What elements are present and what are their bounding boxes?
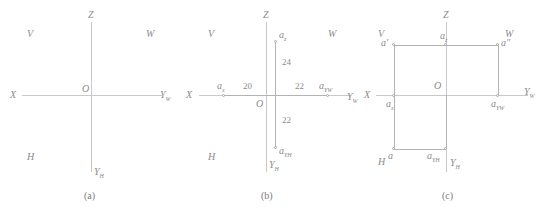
panel-a-z-axis (91, 22, 92, 172)
panel-b-label-origin: O (256, 99, 263, 109)
panel-c-label-ayw: aYW (491, 99, 504, 111)
panel-b-label-v: V (208, 29, 214, 39)
panel-b-dimension-20: 20 (243, 82, 252, 91)
panel-b-label-z: Z (263, 10, 269, 20)
panel-b-label-yw: YW (347, 92, 358, 104)
panel-c-label-origin: O (434, 81, 441, 91)
panel-c-label-a-prime: a′ (381, 38, 388, 48)
panel-b-label-az: az (279, 30, 286, 42)
panel-b-label-yh: YH (269, 160, 279, 172)
panel-c-label-z: Z (443, 10, 449, 20)
panel-b-label-ayh: aYH (279, 146, 292, 158)
panel-c-label-az: az (440, 31, 447, 43)
panel-c-label-yh: YH (450, 158, 460, 170)
panel-c-point-ayh (444, 147, 447, 150)
panel-b-caption: (b) (261, 191, 273, 201)
panel-c-lower-rect-right (446, 95, 447, 149)
panel-c-point-ayw (496, 94, 499, 97)
panel-c-label-yw: YW (524, 87, 535, 99)
panel-c-label-ayh: aYH (427, 151, 440, 163)
panel-c-label-a-double-prime: a″ (501, 38, 510, 48)
panel-c-label-ax: ax (386, 99, 394, 111)
panel-b-label-x: X (186, 90, 192, 100)
panel-c-point-az (444, 43, 447, 46)
panel-b-z-axis (266, 22, 267, 172)
panel-b-label-h: H (208, 152, 215, 162)
panel-a-label-v: V (27, 29, 33, 39)
projection-figure: Z X O YW YH V W H (a) Z X O YW YH V W H (0, 0, 547, 211)
panel-b-dimension-22-bottom: 22 (282, 116, 291, 125)
panel-b-dimension-24: 24 (282, 58, 291, 67)
panel-b-label-w: W (328, 29, 336, 39)
panel-c-point-a-double-prime (496, 43, 499, 46)
panel-c-label-h: H (378, 157, 385, 167)
panel-a-caption: (a) (84, 191, 95, 201)
panel-b-label-ayw: aYW (319, 81, 332, 93)
panel-c-label-a: a (388, 151, 393, 161)
panel-b-point-ax (222, 94, 225, 97)
panel-a-label-w: W (146, 29, 154, 39)
panel-a-label-z: Z (88, 10, 94, 20)
panel-b-label-ax: ax (217, 81, 225, 93)
panel-b-vertical-measure-line (275, 42, 276, 148)
panel-c-lower-rect-left (394, 95, 395, 149)
panel-b-horizontal-measure-line (224, 95, 328, 96)
panel-a-label-yh: YH (94, 167, 104, 179)
panel-b-point-ayh (274, 146, 277, 149)
panel-c-x-axis (376, 95, 528, 96)
panel-a-x-axis (22, 95, 162, 96)
panel-c-upper-rect-right (498, 45, 499, 95)
panel-a-label-origin: O (82, 84, 89, 94)
panel-a-label-yw: YW (160, 90, 171, 102)
panel-c-point-ax (392, 94, 395, 97)
panel-c: Z X O YW YH V W H a′ az a″ ax aYW a aYH … (364, 0, 547, 211)
panel-a: Z X O YW YH V W H (a) (0, 0, 183, 211)
panel-c-caption: (c) (442, 191, 453, 201)
panel-a-label-h: H (27, 152, 34, 162)
panel-b-point-ayw (326, 94, 329, 97)
panel-b-dimension-22-top: 22 (295, 82, 304, 91)
panel-c-lower-rect-bottom (394, 149, 446, 150)
panel-c-label-x: X (364, 90, 370, 100)
panel-c-point-a-prime (392, 43, 395, 46)
panel-b-point-az (274, 40, 277, 43)
panel-b: Z X O YW YH V W H ax az aYW aYH 20 24 22… (183, 0, 366, 211)
panel-a-label-x: X (10, 90, 16, 100)
panel-c-upper-rect-left (394, 45, 395, 95)
